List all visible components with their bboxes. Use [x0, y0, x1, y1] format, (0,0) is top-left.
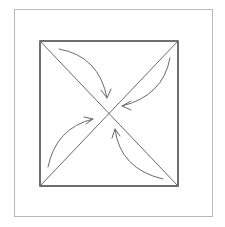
- arrow-bottom-left-icon: [48, 117, 93, 167]
- arrow-top-right-icon: [122, 58, 170, 110]
- diagram-canvas: [0, 0, 225, 227]
- arrow-top-left-icon: [59, 49, 111, 98]
- arrow-bottom-right-icon: [112, 129, 163, 179]
